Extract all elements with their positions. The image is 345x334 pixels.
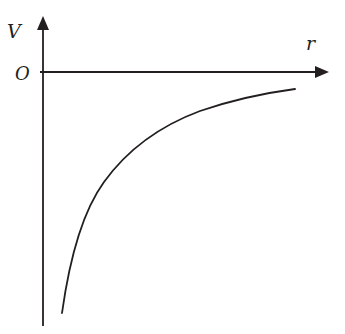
y-axis bbox=[37, 16, 49, 326]
potential-diagram: V O r bbox=[0, 0, 345, 334]
y-axis-arrow-icon bbox=[37, 16, 49, 30]
x-axis bbox=[40, 66, 329, 78]
x-axis-arrow-icon bbox=[315, 66, 329, 78]
origin-label: O bbox=[15, 63, 30, 84]
y-axis-label: V bbox=[7, 20, 23, 42]
x-axis-label: r bbox=[306, 32, 317, 54]
potential-curve bbox=[62, 89, 295, 313]
